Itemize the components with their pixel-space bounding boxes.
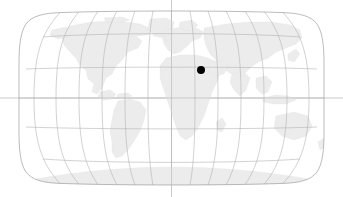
world-map-figure (0, 0, 343, 197)
world-map-canvas[interactable] (0, 0, 343, 197)
location-marker-dot[interactable] (197, 66, 205, 74)
